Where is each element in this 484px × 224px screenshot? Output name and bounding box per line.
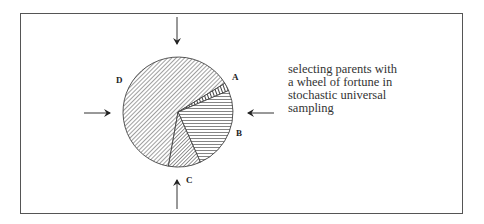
pie-wheel [123,57,233,167]
slice-label-a: A [232,73,239,82]
slice-label-c: C [186,176,193,185]
caption-line: sampling [288,102,397,115]
slice-label-d: D [116,76,123,85]
figure-caption: selecting parents with a wheel of fortun… [288,63,397,115]
slice-label-b: B [236,129,242,138]
wheel-of-fortune-diagram [0,0,484,224]
